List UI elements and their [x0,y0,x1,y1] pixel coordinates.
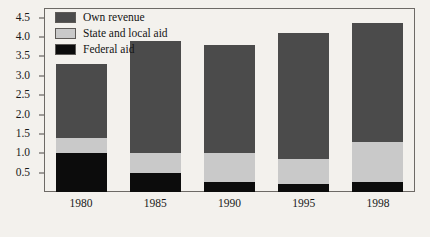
x-tick-label: 1990 [218,197,241,209]
bar-segment-own-revenue [130,41,181,153]
legend-swatch-state-local-aid [55,28,76,39]
y-tick-label: 2.0 [16,109,30,121]
legend-swatch-own-revenue [55,12,76,23]
chart-legend: Own revenue State and local aid Federal … [55,11,168,56]
y-tick-label: 3.5 [16,51,30,63]
legend-label-state-local-aid: State and local aid [83,28,168,40]
bar-segment-state-and-local-aid [352,142,403,183]
legend-label-federal-aid: Federal aid [83,44,134,56]
y-tick-label: 1.5 [16,128,30,140]
y-tick-label: 0.5 [16,167,30,179]
bar-group [204,8,255,192]
legend-item-state-local-aid: State and local aid [55,27,168,40]
legend-label-own-revenue: Own revenue [83,12,145,24]
x-tick-label: 1995 [292,197,315,209]
bar-segment-own-revenue [352,23,403,141]
x-tick-label: 1980 [70,197,93,209]
bar-group [352,8,403,192]
stacked-bar-chart: 0.51.01.52.02.53.03.54.04.5 198019851990… [0,0,430,237]
bar-segment-federal-aid [56,153,107,192]
y-tick-label: 2.5 [16,89,30,101]
legend-item-own-revenue: Own revenue [55,11,168,24]
bar-segment-own-revenue [56,64,107,138]
bar-segment-state-and-local-aid [204,153,255,182]
y-tick-label: 1.0 [16,148,30,160]
y-tick-label: 3.0 [16,70,30,82]
legend-swatch-federal-aid [55,44,76,55]
bar-segment-federal-aid [278,184,329,192]
bar-segment-federal-aid [130,173,181,192]
y-tick-label: 4.0 [16,31,30,43]
bar-segment-own-revenue [204,45,255,153]
x-tick-label: 1998 [366,197,389,209]
bar-group [278,8,329,192]
legend-item-federal-aid: Federal aid [55,43,168,56]
bar-segment-federal-aid [204,182,255,192]
y-axis: 0.51.01.52.02.53.03.54.04.5 [0,0,44,237]
y-tick-label: 4.5 [16,12,30,24]
bar-segment-federal-aid [352,182,403,192]
bar-segment-own-revenue [278,33,329,159]
x-tick-label: 1985 [144,197,167,209]
bar-segment-state-and-local-aid [56,138,107,153]
bar-segment-state-and-local-aid [130,153,181,172]
bar-segment-state-and-local-aid [278,159,329,184]
